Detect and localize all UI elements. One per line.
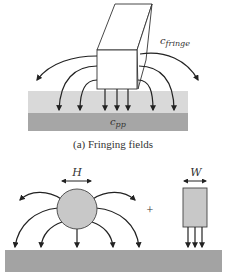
field-lines-rect	[188, 227, 202, 247]
field-line	[41, 222, 62, 247]
round-wire	[57, 189, 97, 229]
w-label: W	[190, 166, 203, 179]
plus-sign: +	[147, 203, 154, 217]
fringing-field-diagram: cfringe cpp (a) Fringing fields H + W	[0, 0, 226, 280]
substrate-layer	[28, 113, 188, 131]
wire-block	[97, 4, 152, 89]
caption-a: (a) Fringing fields	[73, 138, 153, 151]
field-line	[92, 222, 113, 247]
h-label: H	[71, 166, 82, 179]
rect-wire	[183, 188, 207, 227]
dielectric-layer	[28, 91, 188, 113]
wire-front-face	[97, 50, 137, 89]
field-line	[37, 56, 97, 80]
field-line	[93, 192, 135, 200]
field-line	[20, 192, 61, 200]
c-fringe-label: cfringe	[160, 35, 190, 48]
panel-a: cfringe cpp (a) Fringing fields	[28, 4, 198, 151]
panel-b: H + W	[5, 166, 222, 272]
ground-plane	[5, 250, 222, 272]
